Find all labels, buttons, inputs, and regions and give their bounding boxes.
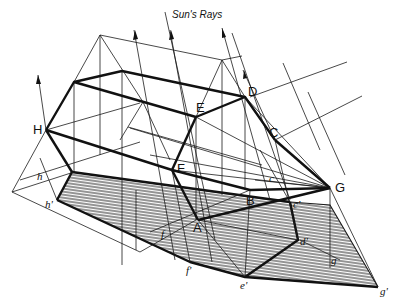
- point-label-E: E: [196, 101, 205, 114]
- point-label-D: D: [248, 85, 257, 98]
- point-label-C: C: [269, 126, 278, 139]
- point-label-g-prime: g': [380, 286, 388, 297]
- point-label-d-prime: d': [300, 236, 308, 247]
- shadow-construction-diagram: Sun's Rays H E D C G F B A h h' c c' d' …: [0, 0, 399, 305]
- point-label-h-prime: h': [45, 199, 53, 210]
- point-label-A: A: [193, 221, 202, 234]
- point-label-g: g: [331, 255, 337, 266]
- point-label-f: f: [161, 229, 164, 240]
- point-label-F: F: [177, 162, 185, 175]
- point-label-H: H: [33, 123, 42, 136]
- diagram-title: Sun's Rays: [172, 10, 222, 20]
- point-label-B: B: [246, 194, 255, 207]
- point-label-f-prime: f': [186, 265, 191, 276]
- point-label-c: c: [269, 173, 274, 184]
- point-label-e-prime: e': [240, 280, 247, 291]
- point-label-h: h: [37, 171, 43, 182]
- point-label-G: G: [335, 181, 345, 194]
- point-label-c-prime: c': [293, 199, 300, 210]
